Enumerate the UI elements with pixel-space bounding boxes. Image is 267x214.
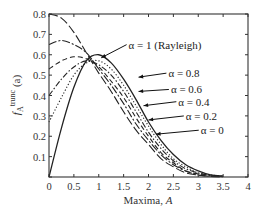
series-line-4 <box>49 40 223 176</box>
x-tick-label: 0 <box>46 181 51 192</box>
x-tick-label: 1.5 <box>117 181 130 192</box>
y-tick-label: 0.8 <box>33 9 46 20</box>
y-tick-label: 0.1 <box>33 152 46 163</box>
y-axis-ticks: 0.10.20.30.40.50.60.70.8 <box>33 9 248 177</box>
annotation-label: α = 0.6 <box>171 83 203 95</box>
arrow-icon <box>139 89 144 93</box>
x-tick-label: 3 <box>196 181 201 192</box>
annotation-label: α = 0.8 <box>168 67 200 79</box>
arrow-icon <box>139 75 144 79</box>
annotations: α = 1 (Rayleigh)α = 0.8α = 0.6α = 0.4α =… <box>101 39 224 137</box>
x-tick-label: 3.5 <box>217 181 230 192</box>
x-axis-title: Maxima, A <box>124 194 173 206</box>
y-tick-label: 0.3 <box>33 111 46 122</box>
annotation-label: α = 0.2 <box>186 110 217 122</box>
x-tick-label: 4 <box>245 181 251 192</box>
x-tick-label: 2 <box>146 181 151 192</box>
annotation-label: α = 1 (Rayleigh) <box>129 39 202 52</box>
annotation-label: α = 0.4 <box>178 96 210 108</box>
y-axis-title: fAtrunc (a) <box>8 75 25 116</box>
y-tick-label: 0.4 <box>33 91 47 102</box>
y-tick-label: 0.2 <box>33 131 46 142</box>
svg-text:fAtrunc (a): fAtrunc (a) <box>8 75 25 116</box>
y-tick-label: 0.5 <box>33 70 46 81</box>
annotation-label: α = 0 <box>201 124 224 136</box>
x-tick-label: 0.5 <box>67 181 80 192</box>
y-tick-label: 0.7 <box>33 29 46 40</box>
y-tick-label: 0.6 <box>33 50 46 61</box>
x-tick-label: 2.5 <box>167 181 180 192</box>
line-chart: 00.511.522.533.54 0.10.20.30.40.50.60.70… <box>0 0 267 214</box>
x-tick-label: 1 <box>96 181 101 192</box>
